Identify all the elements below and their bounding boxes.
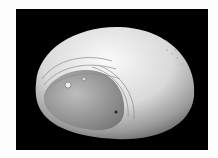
photo — [16, 9, 208, 150]
dome-shell-model — [16, 9, 208, 150]
